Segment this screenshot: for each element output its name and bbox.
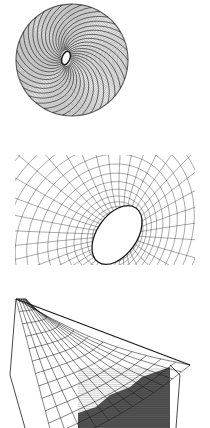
torus-wireframe: [0, 0, 210, 140]
shell-wireframe: [0, 295, 210, 428]
torus-figure: [0, 0, 210, 140]
funnel-wireframe: [0, 140, 210, 280]
funnel-figure: [0, 140, 210, 280]
shell-figure: [0, 295, 210, 428]
